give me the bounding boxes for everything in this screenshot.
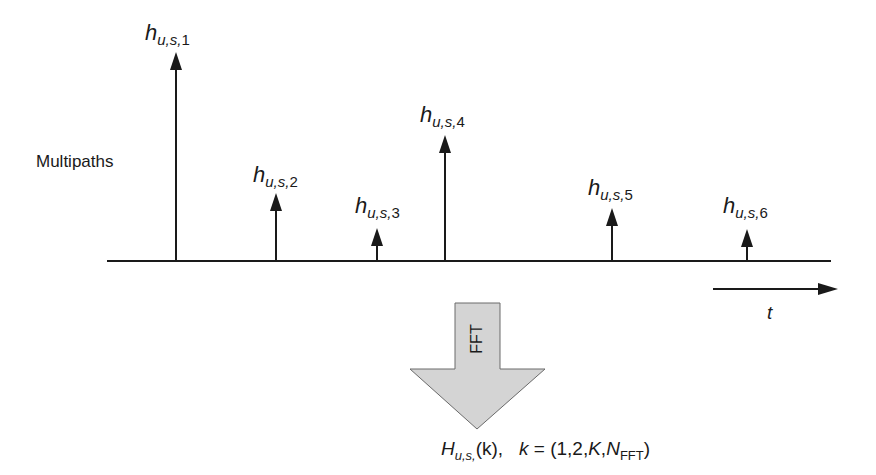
- time-axis-label: t: [767, 302, 772, 324]
- fft-label: FFT: [468, 324, 486, 353]
- path-label-2: hu,s,2: [253, 164, 298, 186]
- path-label-3: hu,s,3: [355, 195, 400, 217]
- multipaths-label: Multipaths: [36, 152, 113, 172]
- path-impulse-6: [741, 229, 753, 261]
- path-impulse-5: [606, 208, 618, 261]
- multipath-diagram-canvas: [0, 0, 876, 475]
- path-impulse-3: [371, 228, 383, 261]
- path-label-1: hu,s,1: [145, 22, 190, 44]
- path-label-5: hu,s,5: [588, 177, 633, 199]
- path-impulse-2: [270, 193, 282, 261]
- path-impulse-1: [170, 52, 182, 261]
- path-label-6: hu,s,6: [723, 195, 768, 217]
- path-label-4: hu,s,4: [420, 104, 465, 126]
- path-impulse-4: [439, 135, 451, 261]
- frequency-response-formula: Hu,s,(k), k = (1,2,K,NFFT): [441, 438, 650, 460]
- fft-down-arrow-icon: [410, 303, 545, 429]
- time-arrow-icon: [713, 283, 838, 295]
